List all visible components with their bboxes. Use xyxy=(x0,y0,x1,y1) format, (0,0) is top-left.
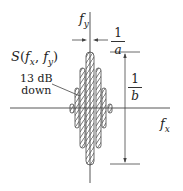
sidelobe-level-label: 13 dB down xyxy=(20,73,53,97)
main-lobe xyxy=(86,52,94,165)
width-dimension-label: 1 a xyxy=(111,27,125,56)
fy-axis-label: fy xyxy=(79,12,89,29)
fourth-lobe-right xyxy=(108,104,112,113)
sidelobe-label-line2: down xyxy=(20,85,53,97)
lobes xyxy=(70,52,112,165)
fourth-lobe-left xyxy=(70,104,74,113)
fx-axis-label: fx xyxy=(160,117,170,134)
spectrum-function-label: S(fx, fy) xyxy=(11,50,58,67)
second-lobe-left xyxy=(80,68,85,148)
second-lobe-right xyxy=(96,68,101,148)
height-dimension-label: 1 b xyxy=(128,73,142,102)
third-lobe-right xyxy=(102,88,106,128)
